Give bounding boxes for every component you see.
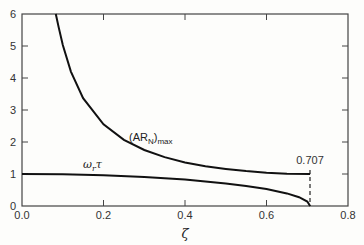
x-tick-2: 0.4 <box>177 209 192 221</box>
y-tick-labels: 0 1 2 3 4 5 6 <box>10 8 16 212</box>
y-tick-6: 6 <box>10 8 16 20</box>
x-tick-3: 0.6 <box>259 209 274 221</box>
y-tick-3: 3 <box>10 104 16 116</box>
y-tick-2: 2 <box>10 136 16 148</box>
wr-tau-label: ωrτ <box>83 158 103 173</box>
y-tick-4: 4 <box>10 72 16 84</box>
x-tick-labels: 0.0 0.2 0.4 0.6 0.8 <box>14 209 355 221</box>
y-tick-1: 1 <box>10 168 16 180</box>
x-tick-0: 0.0 <box>14 209 29 221</box>
x-axis-label: ζ <box>181 226 189 241</box>
y-tick-5: 5 <box>10 40 16 52</box>
ar-max-curve <box>56 14 310 174</box>
threshold-label: 0.707 <box>296 154 324 166</box>
ar-max-label: (ARN)max <box>129 131 173 146</box>
plot-frame <box>22 14 348 206</box>
chart: 0 1 2 3 4 5 6 0.0 0.2 0.4 0.6 0.8 ζ 0.70… <box>0 0 364 245</box>
x-tick-4: 0.8 <box>340 209 355 221</box>
x-tick-1: 0.2 <box>96 209 111 221</box>
